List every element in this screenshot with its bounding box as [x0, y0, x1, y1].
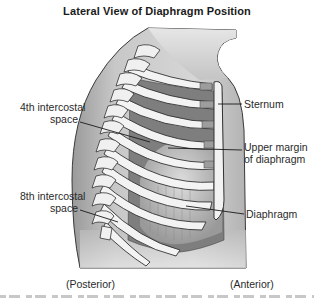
label-posterior: (Posterior) — [66, 278, 115, 290]
label-anterior: (Anterior) — [230, 278, 274, 290]
label-upper-margin-line1: Upper margin — [244, 141, 308, 153]
label-8th-intercostal-space: 8th intercostal space — [20, 190, 78, 214]
label-upper-margin-line2: of diaphragm — [244, 153, 308, 165]
sternum — [214, 82, 224, 221]
cutoff-caption-remnant — [0, 293, 314, 299]
label-upper-margin-of-diaphragm: Upper margin of diaphragm — [244, 141, 308, 165]
label-4th-intercostal-space: 4th intercostal space — [20, 101, 78, 125]
label-8th-intercostal-line2: space — [20, 202, 78, 214]
label-4th-intercostal-line1: 4th intercostal — [20, 101, 78, 113]
label-sternum: Sternum — [244, 98, 284, 110]
label-diaphragm: Diaphragm — [246, 208, 297, 220]
label-4th-intercostal-line2: space — [20, 113, 78, 125]
label-8th-intercostal-line1: 8th intercostal — [20, 190, 78, 202]
